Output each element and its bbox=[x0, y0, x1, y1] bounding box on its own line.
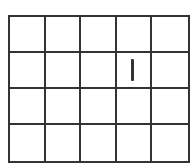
board-cell-r4-c4[interactable] bbox=[117, 125, 153, 161]
board-cell-r1-c2[interactable] bbox=[46, 17, 82, 53]
board-cell-r1-c4[interactable] bbox=[117, 17, 153, 53]
board-cell-r1-c1[interactable] bbox=[10, 17, 46, 53]
board-cell-r3-c5[interactable] bbox=[152, 89, 188, 125]
board-cell-r2-c5[interactable] bbox=[152, 53, 188, 89]
vertical-bar-mark-icon bbox=[131, 59, 134, 81]
board-cell-r3-c3[interactable] bbox=[81, 89, 117, 125]
board-cell-r2-c4[interactable] bbox=[117, 53, 153, 89]
board-cell-r4-c3[interactable] bbox=[81, 125, 117, 161]
board-cell-r3-c4[interactable] bbox=[117, 89, 153, 125]
board-cell-r4-c2[interactable] bbox=[46, 125, 82, 161]
game-board bbox=[8, 15, 190, 163]
board-cell-r4-c5[interactable] bbox=[152, 125, 188, 161]
board-cell-r3-c1[interactable] bbox=[10, 89, 46, 125]
board-cell-r2-c3[interactable] bbox=[81, 53, 117, 89]
board-cell-r1-c5[interactable] bbox=[152, 17, 188, 53]
board-cell-r4-c1[interactable] bbox=[10, 125, 46, 161]
board-cell-r3-c2[interactable] bbox=[46, 89, 82, 125]
board-cell-r1-c3[interactable] bbox=[81, 17, 117, 53]
board-cell-r2-c2[interactable] bbox=[46, 53, 82, 89]
board-cell-r2-c1[interactable] bbox=[10, 53, 46, 89]
